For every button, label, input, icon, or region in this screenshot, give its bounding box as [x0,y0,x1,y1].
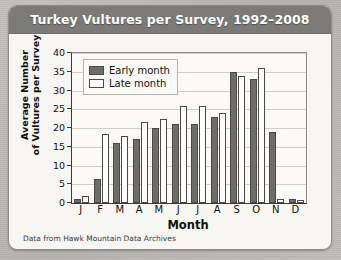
x-axis-tick-label: F [97,204,103,215]
bar-group [228,53,248,203]
bar-group [287,53,307,203]
bar-late-j-5 [180,106,187,204]
x-axis-tick-label: J [79,204,82,215]
y-axis-tick-mark [67,202,71,203]
chart-title-bar: Turkey Vultures per Survey, 1992–2008 [9,6,331,34]
chart-legend: Early month Late month [83,59,178,95]
bar-late-d-11 [297,200,304,203]
x-axis-tick-label: O [252,204,260,215]
bar-group [209,53,229,203]
x-axis-tick-label: D [291,204,299,215]
y-axis-tick-label: 35 [43,65,65,76]
x-axis-tick-label: J [196,204,199,215]
legend-label-late: Late month [109,78,166,89]
x-axis-tick-label: A [214,204,221,215]
y-axis-tick-label: 5 [43,178,65,189]
bar-late-j-0 [82,196,89,204]
x-axis-tick-label: N [272,204,279,215]
y-axis-tick-mark [67,90,71,91]
y-axis-tick-label: 30 [43,84,65,95]
bar-late-j-6 [199,106,206,204]
y-axis-tick-mark [67,183,71,184]
page-title: Turkey Vultures per Survey, 1992–2008 [30,12,309,27]
source-note: Data from Hawk Mountain Data Archives [23,234,176,243]
legend-swatch-early-icon [89,66,104,75]
bar-late-s-8 [238,76,245,204]
bar-early-m-4 [152,128,159,203]
y-axis-title: Average Number of Vultures per Survey [19,30,41,160]
bar-early-f-1 [94,179,101,203]
bar-early-n-10 [269,132,276,203]
bar-group [189,53,209,203]
y-axis-tick-label: 0 [43,197,65,208]
bar-early-s-8 [230,72,237,203]
bar-late-n-10 [277,199,284,203]
bar-late-a-3 [141,122,148,203]
y-axis-tick-mark [67,52,71,53]
x-axis-title: Month [71,218,305,232]
y-axis-tick-mark [67,146,71,147]
bar-late-f-1 [102,134,109,203]
bar-late-m-4 [160,119,167,203]
bar-early-d-11 [289,199,296,203]
x-axis-tick-label: S [234,204,240,215]
y-axis-tick-label: 15 [43,140,65,151]
legend-item-late: Late month [89,77,170,90]
bar-early-m-2 [113,143,120,203]
legend-swatch-late-icon [89,79,104,88]
x-axis-tick-label: M [115,204,124,215]
y-axis-tick-mark [67,108,71,109]
bar-early-o-9 [250,79,257,203]
bar-early-a-7 [211,117,218,203]
x-axis-tick-label: J [177,204,180,215]
bar-early-j-5 [172,124,179,203]
bar-early-a-3 [133,139,140,203]
bar-late-a-7 [219,113,226,203]
bar-early-j-6 [191,124,198,203]
x-axis-tick-label: A [136,204,143,215]
y-axis-tick-mark [67,127,71,128]
y-axis-title-line-2: of Vultures per Survey [30,30,41,160]
bar-early-j-0 [74,199,81,203]
legend-label-early: Early month [109,65,170,76]
y-axis-tick-label: 40 [43,47,65,58]
bar-group [267,53,287,203]
chart-body: Average Number of Vultures per Survey 05… [9,34,331,250]
bar-group [248,53,268,203]
bar-late-m-2 [121,136,128,204]
y-axis-tick-label: 25 [43,103,65,114]
y-axis-tick-mark [67,71,71,72]
chart-card: Turkey Vultures per Survey, 1992–2008 Av… [8,5,332,250]
y-axis-title-line-1: Average Number [19,30,30,160]
bar-late-o-9 [258,68,265,203]
y-axis-tick-mark [67,165,71,166]
y-axis-tick-label: 20 [43,122,65,133]
x-axis-tick-label: M [154,204,163,215]
legend-item-early: Early month [89,64,170,77]
y-axis-tick-label: 10 [43,159,65,170]
